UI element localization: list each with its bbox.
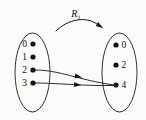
relation-label: R1 (70, 8, 80, 21)
right-node-2-label: 2 (122, 60, 127, 70)
relation-pair-2-4-arrowhead-icon (74, 73, 82, 79)
left-set-nodes: 0 1 2 3 (22, 39, 35, 88)
right-node-0-dot (113, 42, 118, 47)
left-node-1: 1 (22, 52, 35, 62)
right-node-4-label: 4 (122, 80, 127, 90)
relation-pair-3-4-arrowhead-icon (74, 82, 81, 87)
left-node-1-dot (30, 54, 35, 59)
relation-diagram: R1 0 1 2 (0, 0, 146, 120)
right-set-oval (102, 33, 137, 112)
right-set-nodes: 0 2 4 (113, 40, 126, 90)
left-node-2: 2 (22, 65, 35, 75)
right-node-2: 2 (113, 60, 126, 70)
relation-arc-group (56, 20, 105, 31)
right-node-0: 0 (113, 40, 126, 50)
right-node-4: 4 (113, 80, 126, 90)
left-node-0: 0 (22, 39, 35, 49)
left-node-3-label: 3 (22, 78, 27, 88)
relation-arc-icon (56, 20, 97, 31)
left-node-3-dot (30, 80, 35, 85)
left-node-3: 3 (22, 78, 35, 88)
relation-arc-arrowhead-icon (96, 22, 105, 30)
left-node-1-label: 1 (22, 52, 27, 62)
relation-label-subscript: 1 (77, 14, 80, 21)
right-node-2-dot (113, 62, 118, 67)
left-node-2-dot (30, 67, 35, 72)
left-node-0-dot (30, 41, 35, 46)
left-node-2-label: 2 (22, 65, 27, 75)
relation-label-letter: R (70, 8, 77, 19)
left-node-0-label: 0 (22, 39, 27, 49)
relation-diagram-canvas: R1 0 1 2 (0, 0, 146, 120)
right-node-0-label: 0 (122, 40, 127, 50)
right-node-4-dot (113, 82, 118, 87)
